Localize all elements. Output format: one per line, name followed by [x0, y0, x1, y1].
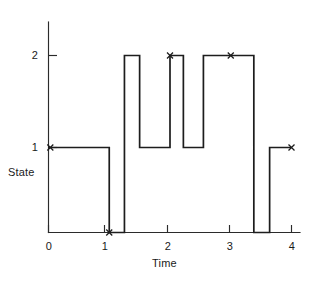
y-tick-label-2: 2 — [22, 50, 38, 61]
x-tick-label-2: 2 — [157, 241, 179, 252]
x-axis-title: Time — [152, 258, 177, 269]
step-series-state — [49, 56, 292, 233]
x-tick-marks — [49, 225, 292, 233]
x-tick-label-3: 3 — [219, 241, 241, 252]
y-tick-label-1: 1 — [22, 142, 38, 153]
chart-container: 2 1 State 0 1 2 3 4 Time — [0, 0, 320, 281]
chart-plot-area — [0, 0, 320, 281]
y-axis-title: State — [8, 167, 35, 178]
data-point-markers — [47, 53, 294, 236]
x-tick-label-1: 1 — [94, 241, 116, 252]
x-tick-label-0: 0 — [38, 241, 60, 252]
y-tick-marks — [49, 56, 58, 148]
x-tick-label-4: 4 — [281, 241, 303, 252]
